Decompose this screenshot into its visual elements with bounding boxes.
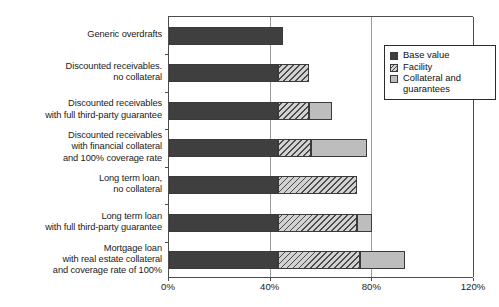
gridline-80pct <box>371 17 372 277</box>
legend-swatch-facility-icon <box>390 64 398 72</box>
category-label: Discounted receivables.no collateral <box>0 61 162 83</box>
category-label: Mortgage loanwith real estate collateral… <box>0 243 162 276</box>
category-label-line: no collateral <box>0 184 162 195</box>
category-label: Discounted receivableswith financial col… <box>0 130 162 163</box>
bar-segment-facility[interactable] <box>278 64 309 82</box>
bar-segment-collateral-guarantees[interactable] <box>309 102 332 120</box>
category-label-line: Discounted receivables. <box>0 61 162 72</box>
category-label-line: Generic overdrafts <box>0 29 162 40</box>
chart-legend: Base valueFacilityCollateral andguarante… <box>384 45 496 100</box>
x-tick-label: 120% <box>461 281 486 292</box>
legend-label: Facility <box>403 62 432 73</box>
bar-segment-facility[interactable] <box>278 214 357 232</box>
bar-segment-collateral-guarantees[interactable] <box>311 139 367 157</box>
figure: Generic overdraftsDiscounted receivables… <box>0 0 499 307</box>
legend-item[interactable]: Facility <box>390 62 491 73</box>
category-label-line: with real estate collateral <box>0 254 162 265</box>
category-label-line: with full third-party guarantee <box>0 110 162 121</box>
category-label: Long term loan,no collateral <box>0 173 162 195</box>
bar-segment-collateral-guarantees[interactable] <box>357 214 372 232</box>
y-tick-mark <box>165 242 169 243</box>
legend-item[interactable]: Collateral andguarantees <box>390 73 491 94</box>
y-tick-mark <box>165 167 169 168</box>
bar-segment-base-value[interactable] <box>169 102 278 120</box>
bar-segment-base-value[interactable] <box>169 251 278 269</box>
bar-segment-base-value[interactable] <box>169 27 283 45</box>
legend-swatch-base-icon <box>390 52 398 60</box>
category-label-line: no collateral <box>0 72 162 83</box>
y-tick-mark <box>165 92 169 93</box>
legend-label: Base value <box>403 50 449 61</box>
legend-item[interactable]: Base value <box>390 50 491 61</box>
y-tick-mark <box>165 54 169 55</box>
y-tick-mark <box>165 129 169 130</box>
legend-swatch-collateral-icon <box>390 75 398 83</box>
category-label-line: Discounted receivables <box>0 130 162 141</box>
bar-segment-base-value[interactable] <box>169 64 278 82</box>
legend-label-line2: guarantees <box>403 84 461 95</box>
bar-segment-facility[interactable] <box>278 251 359 269</box>
bar-segment-base-value[interactable] <box>169 214 278 232</box>
category-label-line: Long term loan <box>0 211 162 222</box>
bar-segment-facility[interactable] <box>278 176 357 194</box>
category-label: Discounted receivableswith full third-pa… <box>0 98 162 120</box>
category-label-line: Long term loan, <box>0 173 162 184</box>
y-tick-mark <box>165 204 169 205</box>
bar-segment-base-value[interactable] <box>169 139 278 157</box>
category-label-line: with full third-party guarantee <box>0 222 162 233</box>
category-label: Long term loanwith full third-party guar… <box>0 211 162 233</box>
category-axis-labels: Generic overdraftsDiscounted receivables… <box>0 16 165 278</box>
category-label-line: with financial collateral <box>0 141 162 152</box>
category-label-line: Mortgage loan <box>0 243 162 254</box>
category-label-line: Discounted receivables <box>0 98 162 109</box>
bar-segment-facility[interactable] <box>278 139 311 157</box>
bar-segment-base-value[interactable] <box>169 176 278 194</box>
category-label-line: and 100% coverage rate <box>0 153 162 164</box>
category-label: Generic overdrafts <box>0 29 162 40</box>
category-label-line: and coverage rate of 100% <box>0 265 162 276</box>
x-tick-label: 40% <box>260 281 279 292</box>
legend-label: Collateral andguarantees <box>403 73 461 94</box>
x-tick-label: 80% <box>362 281 381 292</box>
bar-segment-facility[interactable] <box>278 102 309 120</box>
x-axis: 0%40%80%120% <box>168 278 473 294</box>
bar-segment-collateral-guarantees[interactable] <box>360 251 406 269</box>
x-tick-label: 0% <box>161 281 175 292</box>
